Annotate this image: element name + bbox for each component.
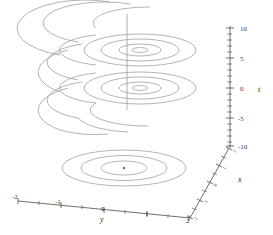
contour-ring-inner [119, 44, 161, 56]
contour-arc-left-b [47, 82, 82, 118]
contour-layer-bottom-clipped [60, 103, 148, 135]
axis-y-tick-label: -2 [12, 193, 18, 201]
axis-t-tick-label: -5 [238, 115, 244, 123]
axis-x-line [190, 148, 229, 218]
axis-y: -2 -1 0 1 2 y [12, 193, 190, 225]
contour-center-marker [123, 167, 125, 169]
axis-y-tick-label: 1 [145, 210, 149, 218]
axis-x-tick-label: -1 [202, 198, 210, 205]
axis-y-tick-label: 0 [101, 205, 105, 213]
contour-ring-core [132, 86, 148, 91]
axis-t-tick-label: 5 [240, 55, 244, 63]
axis-x-tick-label: 2 [231, 148, 238, 154]
contour-ring-core [132, 48, 148, 53]
axis-x-tick-label: 1 [221, 165, 228, 171]
contour-arc-left-a [59, 73, 96, 103]
axis-y-label: y [99, 215, 104, 224]
contour-arc-bottom-a [90, 103, 148, 126]
contour-arc-top-c [17, 0, 110, 55]
axis-t-tick-label: 10 [240, 25, 248, 33]
axis-t-tick-label: -10 [238, 143, 248, 151]
axis-t: 10 5 0 -5 -10 t [226, 25, 261, 151]
contour-ring-middle [101, 77, 179, 99]
axis-x-tick-label: 0 [212, 182, 219, 188]
contour-ring-inner [119, 82, 161, 94]
axis-y-tick-label: 2 [186, 217, 190, 225]
contour-ring-middle [101, 39, 179, 61]
contour-layer-base-plane [62, 150, 186, 186]
contour-arc-top-a [93, 7, 150, 28]
axis-t-label: t [258, 85, 261, 94]
contour-arc-left-b [47, 44, 82, 80]
contour-arc-bottom-c [60, 130, 108, 135]
contour-layer-lower-middle [38, 72, 196, 130]
axis-x: -2 -1 0 1 2 x [187, 147, 242, 223]
axis-x-label: x [237, 175, 242, 184]
axis-t-tick-label: 0 [240, 85, 244, 93]
contour-layer-top-clipped [17, 0, 150, 55]
axis-x-tick-label: -2 [192, 215, 200, 222]
plot-canvas: 10 5 0 -5 -10 t -2 -1 0 1 [0, 0, 273, 235]
contour-plot-3d: 10 5 0 -5 -10 t -2 -1 0 1 [0, 0, 273, 235]
axis-y-tick-label: -1 [55, 198, 61, 206]
